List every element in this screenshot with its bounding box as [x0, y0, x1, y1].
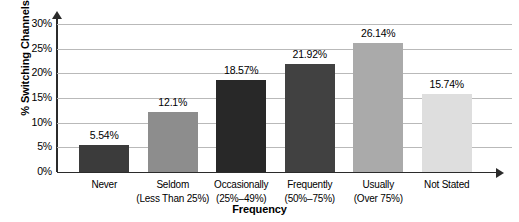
y-axis-tick-label: 5% [14, 140, 52, 152]
category-label-primary: Not Stated [424, 179, 469, 190]
bar [422, 94, 472, 172]
bar [216, 80, 266, 172]
y-axis-tick-label: 25% [14, 42, 52, 54]
category-label-primary: Frequently [287, 179, 332, 190]
bar-chart: % Switching Channels 0%5%10%15%20%25%30%… [0, 0, 519, 222]
category-label-primary: Usually [363, 179, 394, 190]
bar-value-label: 5.54% [64, 129, 144, 141]
bar-value-label: 12.1% [133, 96, 213, 108]
bar [79, 145, 129, 172]
bar [285, 64, 335, 172]
bar-value-label: 21.92% [270, 48, 350, 60]
x-axis-category-label: Not Stated [397, 178, 497, 192]
bar [148, 112, 198, 172]
y-axis-tick-label: 0% [14, 165, 52, 177]
y-axis-tick-label: 20% [14, 66, 52, 78]
bar-value-label: 26.14% [338, 27, 418, 39]
bars-layer [57, 18, 512, 172]
x-axis-title: Frequency [0, 203, 519, 215]
y-axis-tick-label: 30% [14, 17, 52, 29]
bar-value-label: 15.74% [407, 78, 487, 90]
y-axis-tick-label: 10% [14, 116, 52, 128]
bar-value-label: 18.57% [201, 64, 281, 76]
category-label-primary: Never [91, 179, 117, 190]
bar [353, 43, 403, 172]
y-axis-tick-label: 15% [14, 91, 52, 103]
category-label-primary: Seldom [156, 179, 189, 190]
